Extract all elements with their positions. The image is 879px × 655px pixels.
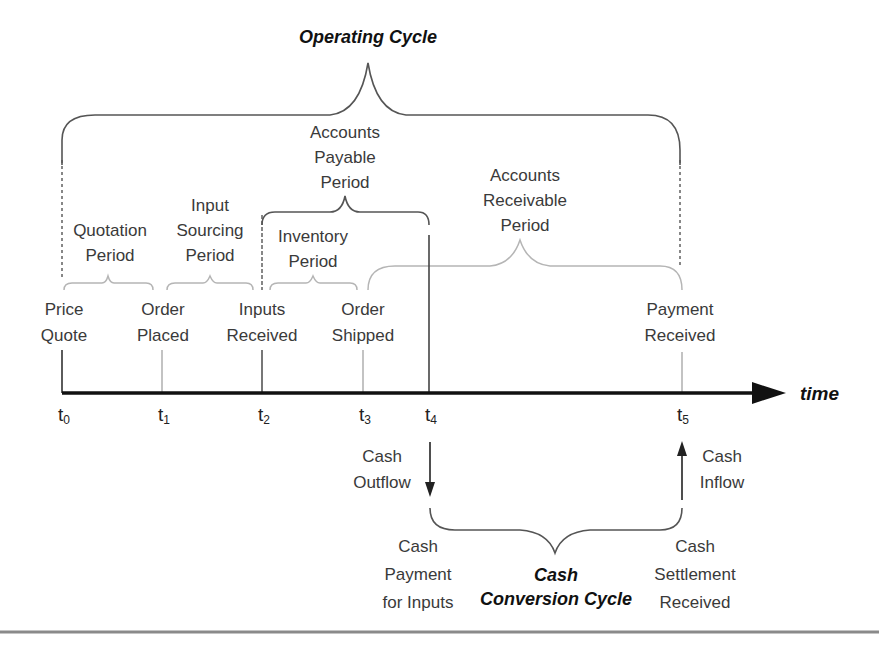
cash-inflow-arrowhead <box>677 441 687 456</box>
tick-t0: t0 <box>58 404 70 427</box>
tick-t5: t5 <box>677 404 689 427</box>
cash-conversion-cycle-title: Cash Conversion Cycle <box>480 563 632 611</box>
accounts-receivable-brace <box>368 240 682 290</box>
time-axis-arrowhead <box>752 382 786 404</box>
tick-t4: t4 <box>425 404 437 427</box>
operating-cycle-title: Operating Cycle <box>299 26 437 48</box>
time-axis-label: time <box>800 383 839 405</box>
input-sourcing-period-label: Input Sourcing Period <box>176 193 243 268</box>
quotation-brace <box>64 276 153 290</box>
accounts-payable-brace <box>262 196 429 225</box>
cash-outflow-label: Cash Outflow <box>353 444 411 496</box>
cash-settlement-label: Cash Settlement Received <box>654 533 735 617</box>
inventory-brace <box>270 276 357 290</box>
cash-conversion-brace <box>430 508 682 553</box>
cash-conversion-diagram: Operating Cycle Cash Conversion Cycle Ac… <box>0 0 879 655</box>
quotation-period-label: Quotation Period <box>73 218 147 268</box>
tick-t1: t1 <box>158 404 170 427</box>
accounts-payable-period-label: Accounts Payable Period <box>310 120 380 195</box>
tick-t2: t2 <box>258 404 270 427</box>
tick-t3: t3 <box>359 404 371 427</box>
cash-outflow-arrowhead <box>425 482 435 497</box>
event-order-placed: Order Placed <box>137 297 189 349</box>
cash-inflow-label: Cash Inflow <box>700 444 744 496</box>
cash-payment-label: Cash Payment for Inputs <box>383 533 454 617</box>
event-inputs-received: Inputs Received <box>227 297 298 349</box>
event-order-shipped: Order Shipped <box>332 297 394 349</box>
input-sourcing-brace <box>167 276 253 290</box>
event-price-quote: Price Quote <box>41 297 87 349</box>
event-payment-received: Payment Received <box>645 297 716 349</box>
inventory-period-label: Inventory Period <box>278 224 348 274</box>
accounts-receivable-period-label: Accounts Receivable Period <box>483 163 567 238</box>
